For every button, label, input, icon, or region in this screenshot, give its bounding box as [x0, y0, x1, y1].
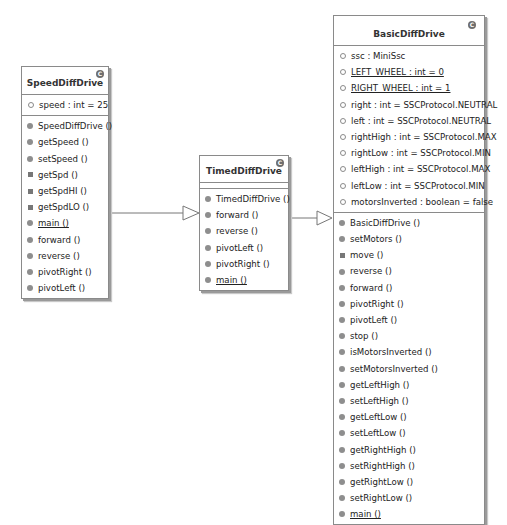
- method-row: getSpdHI (): [22, 183, 108, 199]
- class-icon: C: [276, 159, 284, 167]
- method-label: main (): [350, 506, 381, 522]
- methods-section: SpeedDiffDrive () getSpeed () setSpeed (…: [22, 116, 108, 298]
- method-label: pivotLeft (): [38, 280, 85, 296]
- method-label: reverse (): [216, 223, 258, 239]
- field-icon: [340, 166, 346, 172]
- field-icon: [340, 199, 346, 205]
- field-row: speed : int = 25: [22, 97, 108, 113]
- public-method-icon: [339, 269, 345, 275]
- method-label: forward (): [38, 232, 80, 248]
- class-header: C SpeedDiffDrive: [22, 67, 108, 95]
- method-label: setSpeed (): [38, 151, 88, 167]
- method-label: pivotRight (): [38, 264, 92, 280]
- method-row: forward (): [200, 207, 288, 223]
- field-label: LEFT_WHEEL : int = 0: [351, 64, 444, 80]
- class-name: TimedDiffDrive: [206, 166, 282, 176]
- method-row: reverse (): [200, 223, 288, 239]
- public-method-icon: [339, 463, 345, 469]
- method-row: getRightHigh (): [334, 442, 484, 458]
- public-method-icon: [339, 317, 345, 323]
- public-method-icon: [205, 277, 211, 283]
- method-label: getLeftLow (): [350, 409, 407, 425]
- field-label: rightHigh : int = SSCProtocol.MAX: [351, 129, 497, 145]
- method-row: pivotLeft (): [22, 280, 108, 296]
- method-label: main (): [38, 215, 69, 231]
- public-method-icon: [339, 447, 345, 453]
- method-row: setLeftHigh (): [334, 393, 484, 409]
- public-method-icon: [27, 253, 33, 259]
- method-label: pivotRight (): [350, 296, 404, 312]
- method-label: pivotLeft (): [350, 312, 397, 328]
- class-header: C TimedDiffDrive: [200, 156, 288, 183]
- field-row: motorsInverted : boolean = false: [334, 194, 484, 210]
- public-method-icon: [339, 398, 345, 404]
- method-row: reverse (): [334, 263, 484, 279]
- fields-section: speed : int = 25: [22, 95, 108, 116]
- method-row: getRightLow (): [334, 474, 484, 490]
- public-method-icon: [339, 301, 345, 307]
- public-method-icon: [27, 123, 33, 129]
- method-label: TimedDiffDrive (): [216, 191, 290, 207]
- field-label: left : int = SSCProtocol.NEUTRAL: [351, 113, 491, 129]
- class-timeddiffdrive[interactable]: C TimedDiffDrive TimedDiffDrive () forwa…: [199, 155, 289, 291]
- field-row: leftHigh : int = SSCProtocol.MAX: [334, 161, 484, 177]
- private-method-icon: [28, 172, 33, 177]
- public-method-icon: [339, 349, 345, 355]
- method-label: SpeedDiffDrive (): [38, 118, 112, 134]
- public-method-icon: [205, 245, 211, 251]
- field-icon: [340, 118, 346, 124]
- field-row: right : int = SSCProtocol.NEUTRAL: [334, 97, 484, 113]
- methods-section: TimedDiffDrive () forward () reverse () …: [200, 189, 288, 290]
- public-method-icon: [205, 212, 211, 218]
- class-header: C BasicDiffDrive: [334, 16, 484, 46]
- public-method-icon: [205, 261, 211, 267]
- public-method-icon: [27, 139, 33, 145]
- public-method-icon: [339, 220, 345, 226]
- class-icon: C: [96, 70, 104, 78]
- method-row: setMotors (): [334, 231, 484, 247]
- method-label: stop (): [350, 328, 378, 344]
- field-icon: [340, 134, 346, 140]
- method-row: pivotLeft (): [200, 240, 288, 256]
- method-label: forward (): [350, 280, 392, 296]
- field-icon: [340, 150, 346, 156]
- method-label: main (): [216, 272, 247, 288]
- method-label: reverse (): [38, 248, 80, 264]
- method-row: isMotorsInverted (): [334, 344, 484, 360]
- field-label: RIGHT_WHEEL : int = 1: [351, 80, 450, 96]
- public-method-icon: [339, 430, 345, 436]
- method-row: getLeftLow (): [334, 409, 484, 425]
- class-basicdiffdrive[interactable]: C BasicDiffDrive ssc : MiniSsc LEFT_WHEE…: [333, 15, 485, 525]
- class-speeddiffdrive[interactable]: C SpeedDiffDrive speed : int = 25 SpeedD…: [21, 66, 109, 299]
- method-label: getSpeed (): [38, 134, 89, 150]
- method-label: setMotorsInverted (): [350, 361, 438, 377]
- method-label: getRightLow (): [350, 474, 413, 490]
- method-row: getLeftHigh (): [334, 377, 484, 393]
- field-row: leftLow : int = SSCProtocol.MIN: [334, 178, 484, 194]
- method-row: SpeedDiffDrive (): [22, 118, 108, 134]
- public-method-icon: [205, 196, 211, 202]
- method-label: BasicDiffDrive (): [350, 215, 420, 231]
- field-label: ssc : MiniSsc: [351, 48, 405, 64]
- method-label: getSpd (): [38, 167, 78, 183]
- field-row: LEFT_WHEEL : int = 0: [334, 64, 484, 80]
- method-row: main (): [22, 215, 108, 231]
- method-row: getSpd (): [22, 167, 108, 183]
- method-row: move (): [334, 247, 484, 263]
- method-label: getRightHigh (): [350, 442, 416, 458]
- method-label: reverse (): [350, 263, 392, 279]
- field-label: right : int = SSCProtocol.NEUTRAL: [351, 97, 497, 113]
- class-name: BasicDiffDrive: [373, 29, 445, 39]
- methods-section: BasicDiffDrive () setMotors () move () r…: [334, 213, 484, 525]
- field-icon: [340, 53, 346, 59]
- field-label: motorsInverted : boolean = false: [351, 194, 493, 210]
- method-label: move (): [350, 247, 383, 263]
- method-row: setRightHigh (): [334, 458, 484, 474]
- method-label: getSpdHI (): [38, 183, 87, 199]
- public-method-icon: [339, 414, 345, 420]
- field-icon: [340, 69, 346, 75]
- public-method-icon: [339, 382, 345, 388]
- field-icon: [340, 85, 346, 91]
- field-label: speed : int = 25: [39, 97, 108, 113]
- public-method-icon: [339, 366, 345, 372]
